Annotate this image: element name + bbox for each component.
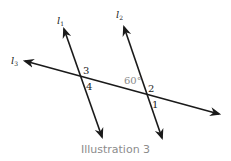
line-l3-transversal xyxy=(25,61,219,114)
angle-label-2: 2 xyxy=(148,83,154,94)
figure-caption: Illustration 3 xyxy=(0,143,231,156)
transversal-diagram: l1 l2 l3 3 4 60° 2 1 xyxy=(0,0,231,161)
angle-label-3: 3 xyxy=(83,65,89,76)
label-l3: l3 xyxy=(11,55,18,67)
label-l2: l2 xyxy=(116,9,123,21)
angle-label-1: 1 xyxy=(152,99,158,110)
angle-label-4: 4 xyxy=(86,81,92,92)
angle-label-60-degrees: 60° xyxy=(124,75,142,86)
line-l1 xyxy=(64,29,102,137)
label-l1: l1 xyxy=(57,15,64,27)
